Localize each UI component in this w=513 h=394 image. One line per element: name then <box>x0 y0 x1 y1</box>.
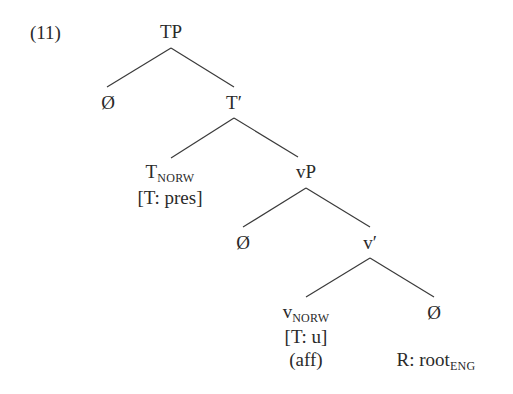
edge-vbar-null <box>370 258 434 297</box>
node-null-spec-tp: Ø <box>101 93 115 113</box>
node-vbar: v′ <box>363 233 377 253</box>
node-tbar: T′ <box>226 93 242 113</box>
edge-tp-tbar <box>171 48 234 87</box>
v-head-label: v <box>283 301 293 322</box>
t-head-feature: [T: pres] <box>138 188 203 208</box>
v-head-feature: [T: u] <box>283 327 330 347</box>
node-v-head: vNORW [T: u] (aff) <box>283 302 330 370</box>
node-null-complement: Ø <box>427 303 441 323</box>
node-root: R: rootENG <box>397 350 476 372</box>
root-subscript: ENG <box>450 359 476 373</box>
v-head-note: (aff) <box>283 350 330 370</box>
edge-tp-null <box>107 48 171 87</box>
edge-tbar-vp <box>234 118 298 157</box>
node-t-head: TNORW [T: pres] <box>138 162 203 208</box>
edge-tbar-thead <box>171 118 234 158</box>
node-vp: vP <box>296 162 316 182</box>
v-head-subscript: NORW <box>292 311 329 325</box>
edge-vbar-vhead <box>306 258 370 297</box>
edge-vp-vbar <box>306 188 370 227</box>
root-label: R: root <box>397 349 450 370</box>
tree-edges <box>0 0 513 394</box>
edge-vp-null <box>243 188 306 227</box>
t-head-subscript: NORW <box>157 171 194 185</box>
t-head-label: T <box>146 161 158 182</box>
node-null-spec-vp: Ø <box>236 233 250 253</box>
node-tp: TP <box>160 22 182 42</box>
example-number: (11) <box>30 22 61 44</box>
